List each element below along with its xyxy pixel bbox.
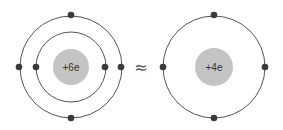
diagram-canvas: +6e ≈ +4e	[0, 0, 283, 130]
electron-icon	[33, 64, 40, 71]
electron-icon	[68, 115, 75, 122]
electron-icon	[211, 115, 218, 122]
left-atom: +6e	[16, 12, 125, 122]
electron-icon	[211, 12, 218, 19]
electron-icon	[262, 64, 269, 71]
approx-symbol: ≈	[134, 58, 147, 77]
electron-icon	[102, 64, 109, 71]
right-nucleus-label: +4e	[206, 62, 223, 73]
electron-icon	[160, 64, 167, 71]
electron-icon	[16, 64, 23, 71]
electron-icon	[118, 64, 125, 71]
electron-icon	[68, 12, 75, 19]
atom-equivalence-diagram: +6e ≈ +4e	[0, 0, 283, 130]
right-atom: +4e	[160, 12, 269, 122]
left-nucleus-label: +6e	[63, 62, 80, 73]
